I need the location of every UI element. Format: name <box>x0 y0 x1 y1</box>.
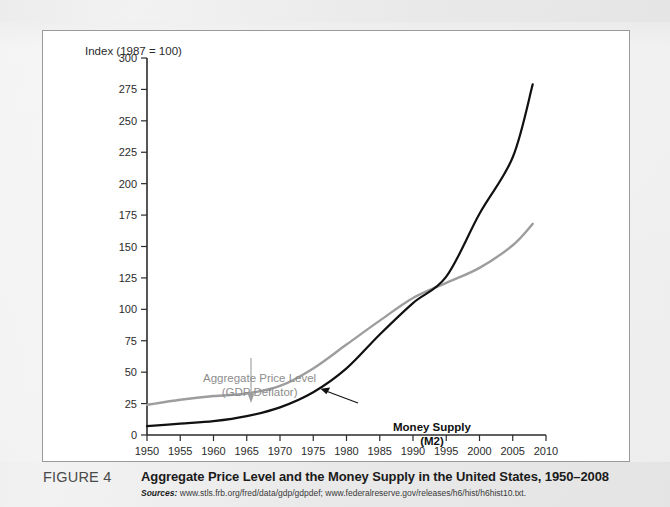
money-supply-annotation-line2: (M2) <box>393 434 471 448</box>
x-tick-label-2010: 2010 <box>534 445 558 457</box>
y-tick-label-50: 50 <box>125 366 137 378</box>
money-supply-leader-line <box>326 391 358 403</box>
figure-number-label: FIGURE 4 <box>43 469 111 485</box>
line-chart-plot: 0255075100125150175200225250275300 19501… <box>43 31 631 463</box>
x-tick-label-1950: 1950 <box>135 445 159 457</box>
price-level-annotation-line1: Aggregate Price Level <box>203 371 316 385</box>
y-tick-label-225: 225 <box>119 146 137 158</box>
y-tick-label-0: 0 <box>131 429 137 441</box>
money-supply-annotation-line1: Money Supply <box>393 420 471 434</box>
price-level-annotation: Aggregate Price Level (GDP Deflator) <box>203 371 316 400</box>
figure-title: Aggregate Price Level and the Money Supp… <box>141 469 609 484</box>
money-supply-leader-arrowhead <box>321 388 331 395</box>
y-tick-label-250: 250 <box>119 115 137 127</box>
sources-label: Sources: <box>141 488 177 498</box>
y-tick-label-300: 300 <box>119 52 137 64</box>
chart-panel: Index (1987 = 100) 025507510012515017520… <box>42 30 630 462</box>
y-tick-label-275: 275 <box>119 83 137 95</box>
x-tick-label-2005: 2005 <box>501 445 525 457</box>
y-tick-label-150: 150 <box>119 241 137 253</box>
x-tick-label-1980: 1980 <box>334 445 358 457</box>
y-tick-label-175: 175 <box>119 209 137 221</box>
y-tick-label-100: 100 <box>119 303 137 315</box>
figure-caption: FIGURE 4 Aggregate Price Level and the M… <box>0 466 670 507</box>
x-tick-label-1965: 1965 <box>235 445 259 457</box>
x-tick-label-1970: 1970 <box>268 445 292 457</box>
y-axis-ticks: 0255075100125150175200225250275300 <box>119 52 147 441</box>
y-tick-label-75: 75 <box>125 335 137 347</box>
money-supply-annotation: Money Supply (M2) <box>393 420 471 449</box>
x-tick-label-1960: 1960 <box>201 445 225 457</box>
y-tick-label-200: 200 <box>119 178 137 190</box>
figure-sources: Sources: www.stls.frb.org/fred/data/gdp/… <box>141 488 526 498</box>
x-tick-label-1955: 1955 <box>168 445 192 457</box>
y-tick-label-25: 25 <box>125 398 137 410</box>
price-level-annotation-line2: (GDP Deflator) <box>203 385 316 399</box>
sources-text: www.stls.frb.org/fred/data/gdp/gdpdef; w… <box>177 488 526 498</box>
y-tick-label-125: 125 <box>119 272 137 284</box>
x-tick-label-1975: 1975 <box>301 445 325 457</box>
x-tick-label-1985: 1985 <box>368 445 392 457</box>
x-axis-ticks: 1950195519601965197019751980198519901995… <box>135 435 558 457</box>
